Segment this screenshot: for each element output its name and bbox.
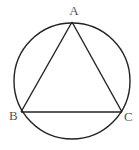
vertex-label-c: C [124,109,133,124]
vertex-label-a: A [69,3,79,18]
segment-ab [21,22,72,112]
geometry-diagram: A B C [0,0,139,150]
vertex-label-b: B [9,108,18,123]
segment-ca [72,22,122,112]
circumscribed-circle [14,23,130,139]
